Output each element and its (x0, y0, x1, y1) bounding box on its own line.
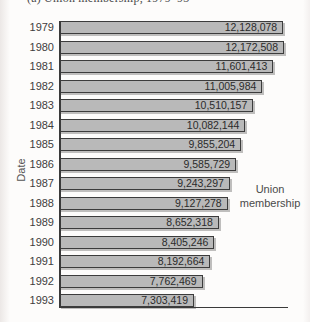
bar-value-label: 9,243,297 (177, 178, 224, 189)
year-label: 1982 (0, 80, 59, 93)
chart-row: 19937,303,419 (0, 294, 310, 314)
bar-value-label: 11,005,984 (205, 81, 257, 92)
bar: 9,127,278 (59, 197, 228, 210)
bar-value-label: 10,082,144 (187, 120, 240, 131)
bar-value-label: 8,192,664 (158, 256, 205, 267)
y-axis-line (59, 21, 61, 308)
year-label: 1981 (0, 60, 59, 73)
year-label: 1986 (0, 158, 59, 171)
year-label: 1989 (0, 216, 59, 229)
series-annotation-line2: membership (231, 197, 309, 211)
year-label: 1979 (0, 21, 59, 34)
chart-row: 19869,585,729 (0, 158, 310, 178)
bar: 8,192,664 (59, 255, 210, 268)
bar: 9,585,729 (59, 158, 236, 171)
chart-row: 19908,405,246 (0, 236, 310, 256)
chart-row: 19859,855,204 (0, 138, 310, 158)
year-label: 1985 (0, 138, 59, 151)
chart-row: 19898,652,318 (0, 216, 310, 236)
bar-value-label: 9,855,204 (188, 139, 235, 150)
year-label: 1988 (0, 197, 59, 210)
chart-row: 198211,005,984 (0, 80, 310, 100)
bar-value-label: 9,585,729 (183, 159, 230, 170)
year-label: 1980 (0, 41, 59, 54)
series-annotation-line1: Union (231, 183, 309, 197)
bar: 8,405,246 (59, 236, 214, 249)
bar-value-label: 8,405,246 (162, 237, 209, 248)
bar: 12,128,078 (59, 21, 283, 34)
bar: 11,601,413 (59, 60, 273, 73)
year-label: 1991 (0, 255, 59, 268)
bar: 7,762,469 (59, 275, 203, 288)
chart-row: 19927,762,469 (0, 275, 310, 295)
bar: 10,082,144 (59, 119, 245, 132)
bar: 9,243,297 (59, 177, 230, 190)
bar-value-label: 9,127,278 (175, 198, 222, 209)
bar-value-label: 11,601,413 (216, 61, 268, 72)
year-label: 1993 (0, 294, 59, 307)
year-label: 1987 (0, 177, 59, 190)
bar-value-label: 7,303,419 (141, 295, 188, 306)
year-label: 1992 (0, 275, 59, 288)
bar-value-label: 12,172,508 (225, 42, 278, 53)
bar: 12,172,508 (59, 41, 284, 54)
bar-rows: 197912,128,078198012,172,508198111,601,4… (0, 21, 310, 314)
bar-value-label: 12,128,078 (225, 22, 278, 33)
year-label: 1984 (0, 119, 59, 132)
bar: 9,855,204 (59, 138, 241, 151)
chart-row: 19918,192,664 (0, 255, 310, 275)
series-annotation: Union membership (231, 183, 309, 210)
bar-value-label: 10,510,157 (195, 100, 248, 111)
bar: 11,005,984 (59, 80, 262, 93)
chart-row: 198310,510,157 (0, 99, 310, 119)
bar-value-label: 7,762,469 (150, 276, 197, 287)
chart-row: 198012,172,508 (0, 41, 310, 61)
year-label: 1990 (0, 236, 59, 249)
year-label: 1983 (0, 99, 59, 112)
chart-row: 198410,082,144 (0, 119, 310, 139)
x-axis-line (59, 307, 288, 309)
bar: 10,510,157 (59, 99, 253, 112)
chart-row: 197912,128,078 (0, 21, 310, 41)
bar: 8,652,318 (59, 216, 219, 229)
bar-value-label: 8,652,318 (166, 217, 213, 228)
figure-title: (a) Union membership, 1979–93 (27, 0, 297, 6)
chart-row: 198111,601,413 (0, 60, 310, 80)
bar: 7,303,419 (59, 294, 194, 307)
